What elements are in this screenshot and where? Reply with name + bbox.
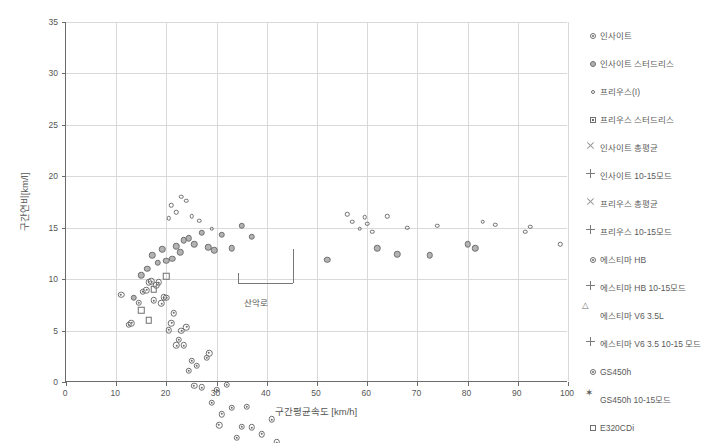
- circle-dot-icon: [586, 365, 600, 379]
- data-point: [394, 251, 401, 258]
- tick-y: [62, 279, 66, 280]
- legend-item-9[interactable]: 에스티마 HB 10-15모드: [586, 274, 726, 302]
- legend-marker-glyph: [589, 144, 598, 153]
- y-tick-label: 10: [49, 274, 58, 284]
- tick-y: [62, 73, 66, 74]
- legend-item-3[interactable]: 프리우스 스터드리스: [586, 106, 726, 134]
- legend-marker-glyph: [590, 425, 597, 432]
- data-point: [159, 246, 166, 253]
- legend-item-label: 프리우스 10-15모드: [600, 227, 672, 237]
- legend-item-12[interactable]: GS450h: [586, 358, 726, 386]
- data-point: [153, 282, 160, 289]
- data-point: [173, 243, 180, 250]
- data-point: [156, 279, 163, 286]
- gridline-horizontal: [66, 279, 567, 280]
- gridline-vertical: [518, 22, 519, 381]
- y-tick-label: 35: [49, 17, 58, 27]
- legend-item-7[interactable]: 프리우스 10-15모드: [586, 218, 726, 246]
- data-point: [324, 256, 331, 263]
- legend-item-label: 인사이트 스터드리스: [600, 59, 674, 69]
- square-icon: [586, 421, 600, 435]
- legend-item-0[interactable]: 인사이트: [586, 22, 726, 50]
- y-tick-label: 30: [49, 68, 58, 78]
- data-point: [205, 244, 212, 251]
- data-point: [248, 424, 255, 431]
- legend-item-14[interactable]: E320CDi: [586, 414, 726, 442]
- data-point: [155, 259, 162, 266]
- legend-marker-glyph: [589, 396, 597, 404]
- legend-item-label: 프리우스 스터드리스: [600, 115, 674, 125]
- tick-x: [66, 382, 67, 386]
- legend-marker-glyph: [590, 117, 596, 123]
- legend-item-4[interactable]: 인사이트 총평균: [586, 134, 726, 162]
- data-point: [144, 266, 151, 273]
- data-point: [140, 289, 147, 296]
- data-point: [186, 367, 193, 374]
- legend-marker-glyph: [590, 369, 597, 376]
- data-point: [188, 358, 195, 365]
- tick-y: [62, 176, 66, 177]
- data-point: [472, 245, 479, 252]
- annotation-label: 산악로: [244, 296, 268, 308]
- tick-y: [62, 382, 66, 383]
- legend-item-13[interactable]: GS450h 10-15모드: [586, 386, 726, 414]
- gridline-horizontal: [66, 73, 567, 74]
- plus-icon: [586, 169, 600, 183]
- tick-x: [367, 382, 368, 386]
- plus-icon: [586, 337, 600, 351]
- data-point: [181, 237, 188, 244]
- plus-icon: [586, 225, 600, 239]
- x-tick-label: 30: [211, 388, 220, 398]
- legend-item-label: GS450h 10-15모드: [600, 395, 671, 405]
- annotation-leader-line: [293, 249, 294, 283]
- data-point: [149, 252, 156, 259]
- legend-item-6[interactable]: 프리우스 총평균: [586, 190, 726, 218]
- annotation-leader-line: [238, 273, 239, 283]
- legend-item-label: 에스티마 HB 10-15모드: [600, 283, 686, 293]
- data-point: [345, 212, 350, 217]
- gridline-vertical: [166, 22, 167, 381]
- data-point: [370, 230, 375, 235]
- x-tick-label: 0: [63, 388, 68, 398]
- tick-x: [166, 382, 167, 386]
- data-point: [523, 230, 528, 235]
- x-icon: [586, 141, 600, 155]
- gridline-vertical: [568, 22, 569, 381]
- legend-item-5[interactable]: 인사이트 10-15모드: [586, 162, 726, 190]
- legend: 인사이트인사이트 스터드리스프리우스(I)프리우스 스터드리스인사이트 총평균인…: [586, 22, 726, 442]
- gridline-vertical: [217, 22, 218, 381]
- legend-marker-glyph: [589, 200, 598, 209]
- legend-item-1[interactable]: 인사이트 스터드리스: [586, 50, 726, 78]
- gridline-vertical: [367, 22, 368, 381]
- circle-dot-icon: [586, 29, 600, 43]
- legend-item-label: GS450h: [600, 367, 631, 377]
- plot-area: 산악로: [65, 22, 567, 382]
- legend-item-11[interactable]: 에스티마 V6 3.5 10-15 모드: [586, 330, 726, 358]
- triangle-icon: [586, 309, 600, 323]
- gridline-vertical: [468, 22, 469, 381]
- gridline-horizontal: [66, 176, 567, 177]
- circle-dot-icon: [586, 253, 600, 267]
- data-point: [198, 230, 205, 237]
- legend-item-label: 인사이트 총평균: [600, 143, 658, 153]
- x-tick-label: 20: [161, 388, 170, 398]
- data-point: [171, 310, 178, 317]
- legend-item-label: 프리우스(I): [600, 87, 640, 97]
- x-tick-label: 100: [560, 388, 574, 398]
- legend-item-10[interactable]: 에스티마 V6 3.5L: [586, 302, 726, 330]
- legend-item-2[interactable]: 프리우스(I): [586, 78, 726, 106]
- data-point: [131, 294, 138, 301]
- data-point: [128, 320, 135, 327]
- data-point: [493, 222, 498, 227]
- data-point: [216, 422, 223, 429]
- legend-marker-glyph: [589, 228, 598, 237]
- legend-item-label: E320CDi: [600, 423, 634, 433]
- legend-marker-glyph: [589, 284, 598, 293]
- legend-marker-glyph: [589, 313, 597, 320]
- data-point: [138, 272, 145, 279]
- legend-item-8[interactable]: 에스티마 HB: [586, 246, 726, 274]
- circle-small-icon: [586, 85, 600, 99]
- legend-marker-glyph: [590, 33, 597, 40]
- y-tick-label: 5: [53, 326, 58, 336]
- legend-item-label: 에스티마 V6 3.5L: [600, 311, 664, 321]
